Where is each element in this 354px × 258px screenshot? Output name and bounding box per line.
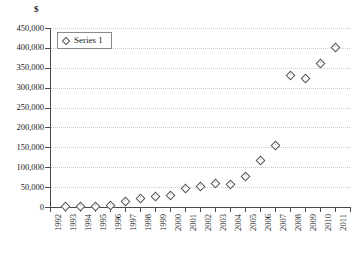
y-axis-tick-label: 250,000 (0, 103, 44, 112)
y-axis-tick-mark (45, 28, 50, 29)
x-axis-tick-label: 2005 (249, 214, 258, 231)
x-axis-tick-mark (350, 207, 351, 212)
x-axis-tick-label: 1998 (144, 214, 153, 231)
figure-caption (6, 250, 346, 258)
x-axis-tick-label: 1999 (159, 214, 168, 231)
y-axis-tick-label: 450,000 (0, 24, 44, 33)
x-axis-tick-mark (170, 207, 171, 212)
chart-legend[interactable]: Series 1 (57, 32, 112, 49)
x-axis-tick-mark (200, 207, 201, 212)
chart-container: $ 450,000400,000350,000300,000250,000200… (0, 0, 354, 258)
y-axis-line (50, 28, 51, 208)
x-axis-tick-label: 2004 (234, 214, 243, 231)
y-axis-tick-mark (45, 187, 50, 188)
x-axis-tick-label: 1996 (114, 214, 123, 231)
gridline (50, 167, 350, 168)
x-axis-tick-label: 2001 (189, 214, 198, 231)
x-axis-tick-label: 2007 (279, 214, 288, 231)
x-axis-tick-label: 2006 (264, 214, 273, 231)
y-axis-tick-label: 300,000 (0, 83, 44, 92)
x-axis-tick-label: 1994 (84, 214, 93, 231)
y-axis-tick-label: 150,000 (0, 143, 44, 152)
x-axis-tick-label: 2002 (204, 214, 213, 231)
x-axis-tick-mark (155, 207, 156, 212)
x-axis-tick-label: 2003 (219, 214, 228, 231)
x-axis-tick-mark (320, 207, 321, 212)
y-axis-tick-mark (45, 88, 50, 89)
gridline (50, 68, 350, 69)
legend-series-label: Series 1 (74, 35, 103, 46)
y-axis-tick-label: 0 (0, 203, 44, 212)
x-axis-tick-label: 2010 (324, 214, 333, 231)
y-axis-unit-label: $ (34, 4, 39, 14)
y-axis-tick-label: 200,000 (0, 123, 44, 132)
x-axis-tick-mark (245, 207, 246, 212)
y-axis-tick-mark (45, 68, 50, 69)
gridline (50, 28, 350, 29)
x-axis-tick-mark (305, 207, 306, 212)
y-axis-tick-label: 100,000 (0, 163, 44, 172)
gridline (50, 147, 350, 148)
x-axis-tick-label: 2009 (309, 214, 318, 231)
y-axis-tick-label: 350,000 (0, 63, 44, 72)
x-axis-tick-mark (185, 207, 186, 212)
gridline (50, 88, 350, 89)
x-axis-tick-label: 2011 (339, 214, 348, 231)
x-axis-tick-mark (230, 207, 231, 212)
x-axis-tick-label: 1997 (129, 214, 138, 231)
y-axis-tick-mark (45, 108, 50, 109)
x-axis-tick-mark (215, 207, 216, 212)
x-axis-tick-label: 1995 (99, 214, 108, 231)
x-axis-tick-mark (290, 207, 291, 212)
x-axis-tick-label: 2008 (294, 214, 303, 231)
gridline (50, 127, 350, 128)
y-axis-tick-label: 50,000 (0, 183, 44, 192)
x-axis-tick-mark (140, 207, 141, 212)
x-axis-tick-label: 2000 (174, 214, 183, 231)
x-axis-tick-mark (125, 207, 126, 212)
y-axis-tick-mark (45, 147, 50, 148)
y-axis-tick-mark (45, 48, 50, 49)
x-axis-tick-label: 1992 (54, 214, 63, 231)
x-axis-tick-mark (50, 207, 51, 212)
y-axis-tick-mark (45, 127, 50, 128)
x-axis-tick-mark (275, 207, 276, 212)
x-axis-tick-label: 1993 (69, 214, 78, 231)
x-axis-tick-mark (260, 207, 261, 212)
legend-diamond-icon (62, 36, 70, 44)
y-axis-tick-label: 400,000 (0, 43, 44, 52)
y-axis-tick-mark (45, 167, 50, 168)
x-axis-tick-mark (335, 207, 336, 212)
gridline (50, 108, 350, 109)
